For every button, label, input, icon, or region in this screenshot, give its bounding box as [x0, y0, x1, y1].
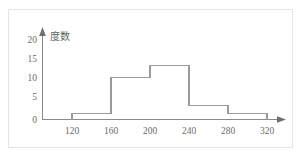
x-tick-label: 160: [104, 126, 119, 136]
y-tick-label: 15: [28, 54, 38, 64]
y-tick-label: 0: [32, 115, 37, 125]
y-axis-title: 度数: [50, 30, 70, 42]
histogram-bars: [72, 66, 267, 120]
x-tick-label: 200: [143, 126, 158, 136]
x-tick-label: 320: [260, 126, 275, 136]
y-tick-label: 5: [32, 92, 37, 102]
histogram-figure: 20 15 10 5 0 120 160 200 240 280 320 度数: [0, 0, 301, 157]
x-tick-label: 240: [182, 126, 197, 136]
x-axis-arrow-icon: [277, 116, 286, 123]
histogram-bar-outline: [72, 66, 267, 120]
y-tick-label: 20: [28, 35, 38, 45]
y-axis-arrow-icon: [39, 27, 46, 36]
x-tick-label: 120: [65, 126, 80, 136]
x-tick-label: 280: [221, 126, 236, 136]
y-tick-label: 10: [28, 73, 38, 83]
histogram-plot: 20 15 10 5 0 120 160 200 240 280 320 度数: [0, 0, 301, 157]
